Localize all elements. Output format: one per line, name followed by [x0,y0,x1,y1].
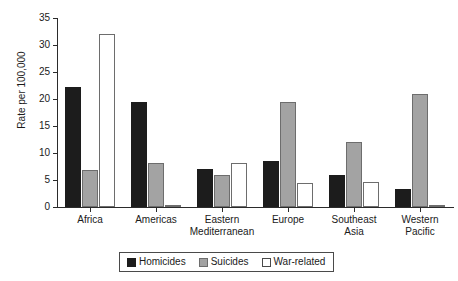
y-tick-mark [53,207,57,208]
x-tick-mark [354,208,355,212]
bar-group [197,18,247,207]
bar-homicides [329,175,345,207]
bar-suicides [346,142,362,207]
legend-label: War-related [274,256,326,268]
legend-swatch-war [262,258,271,267]
y-tick: 35 [0,18,57,19]
bar-suicides [82,170,98,207]
bar-war [429,205,445,207]
bar-homicides [131,102,147,207]
bar-group [329,18,379,207]
bar-war [363,182,379,207]
x-tick-mark [288,208,289,212]
legend-item: Homicides [127,256,186,268]
x-tick-mark [420,208,421,212]
y-tick: 5 [0,180,57,181]
y-tick-label: 5 [44,173,50,186]
plot-area [57,18,453,207]
y-axis-title: Rate per 100,000 [16,15,28,165]
legend-item: War-related [262,256,326,268]
bar-homicides [395,189,411,207]
legend-swatch-homicides [127,258,136,267]
bar-homicides [65,87,81,207]
x-tick-mark [90,208,91,212]
bar-group [131,18,181,207]
bar-war [99,34,115,207]
x-axis-line [57,207,454,208]
y-tick-label: 10 [39,146,50,159]
y-tick-label: 20 [39,92,50,105]
bar-war [231,163,247,207]
bar-suicides [214,175,230,207]
legend-swatch-suicides [199,258,208,267]
y-tick-label: 30 [39,38,50,51]
y-tick: 15 [0,126,57,127]
bar-homicides [263,161,279,207]
legend-label: Suicides [211,256,249,268]
x-tick-mark [222,208,223,212]
y-tick-label: 0 [44,200,50,213]
x-tick-mark [156,208,157,212]
y-tick: 30 [0,45,57,46]
legend-item: Suicides [199,256,249,268]
y-tick-label: 35 [39,11,50,24]
bar-homicides [197,169,213,207]
bar-suicides [280,102,296,207]
bar-suicides [148,163,164,207]
y-tick: 25 [0,72,57,73]
x-axis-label: Western Pacific [375,214,458,238]
bar-war [297,183,313,207]
chart-legend: HomicidesSuicidesWar-related [119,252,334,272]
legend-label: Homicides [139,256,186,268]
bar-group [395,18,445,207]
y-tick-label: 15 [39,119,50,132]
bar-group [263,18,313,207]
bar-suicides [412,94,428,207]
bar-group [65,18,115,207]
y-tick: 10 [0,153,57,154]
bar-war [165,205,181,207]
y-tick-label: 25 [39,65,50,78]
y-tick: 0 [0,207,57,208]
y-tick: 20 [0,99,57,100]
bar-chart: Rate per 100,000 05101520253035 AfricaAm… [0,0,458,281]
